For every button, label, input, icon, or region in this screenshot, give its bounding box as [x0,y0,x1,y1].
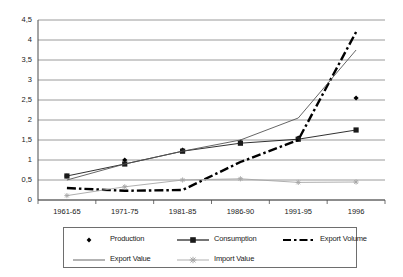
series-import-value [64,176,358,198]
x-axis-tick-label: 1981-85 [160,208,206,216]
data-point [238,176,243,181]
data-series-layer [64,32,358,198]
y-axis-tick-label: 4,5 [10,16,32,24]
legend-label-export-volume: Export Volume [320,234,367,243]
y-axis-tick-label: 0 [10,196,32,204]
legend-row-2: Export Value Import Value [64,248,356,268]
chart-legend: Production Consumption Export Volume [63,227,357,268]
gridlines [38,20,385,200]
data-point [64,193,69,198]
data-point [122,184,127,189]
import-value-marker-icon [176,252,210,264]
chart-figure: 4,543,532,521,510,50 1961-651971-751981-… [0,0,403,277]
legend-row-1: Production Consumption Export Volume [64,228,356,248]
y-axis-tick-label: 2,5 [10,96,32,104]
production-marker-icon [72,232,106,244]
y-axis-tick-label: 3,5 [10,56,32,64]
data-point [238,141,243,146]
legend-label-production: Production [110,234,144,243]
y-axis-tick-label: 0,5 [10,176,32,184]
y-axis-tick-label: 3 [10,76,32,84]
x-axis-ticks [38,200,385,204]
data-point [353,179,358,184]
series-consumption [64,127,358,178]
legend-item-production[interactable]: Production [72,228,144,248]
legend-label-consumption: Consumption [214,234,257,243]
data-point [353,127,358,132]
y-axis-tick-label: 1 [10,156,32,164]
x-axis-tick-label: 1991-95 [275,208,321,216]
export-value-line-icon [72,252,106,264]
data-point [296,180,301,185]
consumption-marker-icon [176,232,210,244]
y-axis-tick-label: 1,5 [10,136,32,144]
x-axis-tick-label: 1986-90 [217,208,263,216]
axes [38,20,385,200]
legend-item-import-value[interactable]: Import Value [176,248,254,268]
x-axis-tick-label: 1971-75 [102,208,148,216]
legend-label-import-value: Import Value [214,254,254,263]
legend-item-export-value[interactable]: Export Value [72,248,151,268]
y-axis-tick-label: 2 [10,116,32,124]
x-axis-tick-label: 1996 [333,208,379,216]
x-axis-tick-label: 1961-65 [44,208,90,216]
legend-item-consumption[interactable]: Consumption [176,228,257,248]
export-volume-line-icon [282,232,316,244]
data-point [64,173,69,178]
y-axis-tick-label: 4 [10,36,32,44]
legend-item-export-volume[interactable]: Export Volume [282,228,367,248]
data-point [180,177,185,182]
legend-label-export-value: Export Value [110,254,151,263]
